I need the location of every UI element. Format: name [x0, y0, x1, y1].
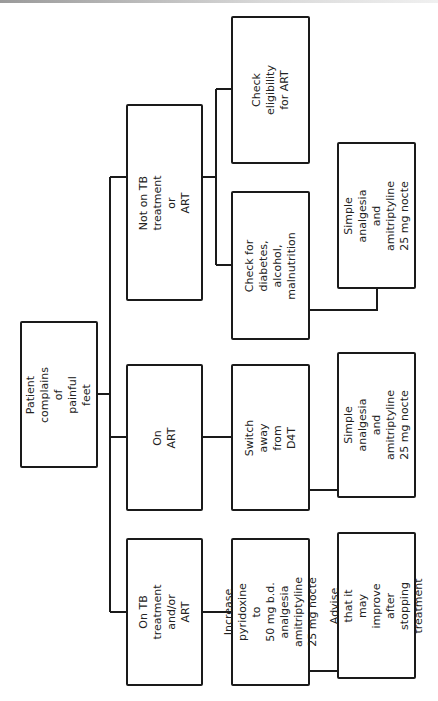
node-label: Not on TB treatment or ART [137, 175, 193, 230]
node-not-on-tb-treatment: Not on TB treatment or ART [126, 104, 203, 301]
node-label: Advise that it may improve after stoppin… [328, 578, 426, 633]
node-label: On ART [151, 419, 179, 456]
node-label: Patient complains of painful feet [24, 366, 94, 422]
node-patient-complains: Patient complains of painful feet [20, 321, 98, 468]
node-label: Simple analgesia and amitriptyline 25 mg… [342, 180, 412, 250]
node-label: Check for diabetes, alcohol, malnutritio… [243, 232, 299, 299]
node-simple-analgesia-2: Simple analgesia and amitriptyline 25 mg… [337, 352, 416, 498]
node-label: Switch away from D4T [243, 419, 299, 457]
node-label: Check eligibility for ART [250, 65, 292, 115]
node-increase-pyridoxine: Increase pyridoxine to 50 mg b.d. analge… [231, 538, 310, 686]
node-advise-improve: Advise that it may improve after stoppin… [337, 532, 416, 679]
node-simple-analgesia-1: Simple analgesia and amitriptyline 25 mg… [337, 142, 416, 289]
node-on-art: On ART [126, 364, 203, 511]
node-label: Increase pyridoxine to 50 mg b.d. analge… [222, 577, 320, 647]
node-check-diabetes: Check for diabetes, alcohol, malnutritio… [231, 191, 310, 340]
node-on-tb-treatment: On TB treatment and/or ART [126, 538, 203, 686]
node-check-eligibility: Check eligibility for ART [231, 16, 310, 164]
node-label: Simple analgesia and amitriptyline 25 mg… [342, 390, 412, 460]
node-label: On TB treatment and/or ART [137, 584, 193, 639]
node-switch-d4t: Switch away from D4T [231, 364, 310, 511]
